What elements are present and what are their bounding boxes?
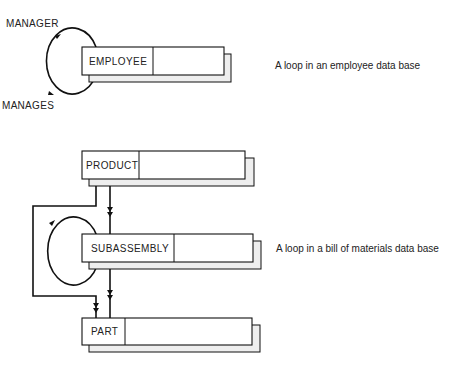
record-product: PRODUCT [82, 151, 254, 186]
manager-label: MANAGER [6, 18, 59, 29]
record-name: PRODUCT [86, 160, 138, 171]
employee-caption: A loop in an employee data base [275, 60, 420, 71]
arrowhead-icon [48, 91, 54, 95]
bom-caption: A loop in a bill of materials data base [276, 243, 439, 254]
record-name: PART [91, 326, 118, 337]
record-subassembly: SUBASSEMBLY [82, 234, 261, 269]
product-to-subassembly-connector [107, 186, 113, 234]
record-employee: EMPLOYEE [82, 47, 231, 82]
record-part: PART [82, 318, 260, 352]
record-name: SUBASSEMBLY [91, 243, 169, 254]
record-name: EMPLOYEE [89, 56, 147, 67]
diagram-canvas: EMPLOYEE PRODUCT SUBASSEMBLY [0, 0, 451, 370]
arrowhead-icon [49, 220, 55, 226]
manages-label: MANAGES [2, 100, 54, 111]
subassembly-to-part-connector [107, 269, 113, 318]
